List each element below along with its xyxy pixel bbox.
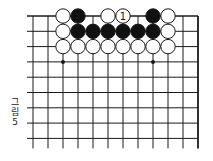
black-stone (71, 24, 85, 38)
white-stone (101, 9, 115, 23)
white-stone (161, 24, 175, 38)
black-stone (146, 24, 160, 38)
white-stone (56, 39, 70, 53)
white-stone (146, 39, 160, 53)
black-stone (101, 24, 115, 38)
caption-char-1: 그 (8, 97, 22, 107)
black-stone (146, 9, 160, 23)
white-stone (161, 9, 175, 23)
black-stone (71, 9, 85, 23)
stones: 1 (56, 9, 175, 54)
white-stone (86, 39, 100, 53)
white-stone (131, 39, 145, 53)
stone-move-label: 1 (120, 11, 126, 22)
black-stone (131, 24, 145, 38)
star-point (61, 60, 65, 64)
caption-char-2: 림 (8, 107, 22, 117)
figure-caption: 그 림 5 (8, 97, 22, 127)
caption-char-3: 5 (8, 117, 22, 127)
star-point (151, 60, 155, 64)
black-stone (116, 24, 130, 38)
white-stone (161, 39, 175, 53)
white-stone (56, 9, 70, 23)
go-board: 1 (0, 0, 213, 161)
white-stone (101, 39, 115, 53)
black-stone (86, 24, 100, 38)
white-stone (71, 39, 85, 53)
white-stone (56, 24, 70, 38)
white-stone (116, 39, 130, 53)
